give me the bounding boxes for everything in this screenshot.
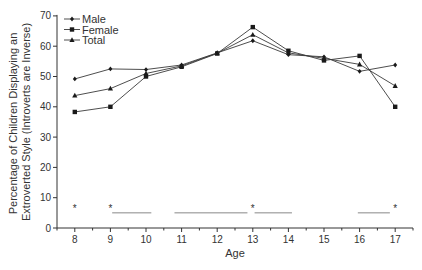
series-line — [75, 41, 395, 79]
legend-label: Total — [82, 34, 105, 46]
series-lines — [72, 25, 398, 114]
x-tick-label: 16 — [354, 234, 366, 245]
data-point — [251, 38, 255, 43]
data-point — [108, 105, 112, 109]
y-tick-label: 0 — [45, 223, 51, 234]
x-tick-label: 12 — [212, 234, 224, 245]
data-point — [250, 32, 255, 37]
y-tick-label: 40 — [40, 101, 52, 112]
data-point — [108, 67, 112, 72]
significance-asterisk: * — [251, 203, 255, 214]
x-tick-label: 14 — [283, 234, 295, 245]
y-axis: 010203040506070 — [40, 10, 57, 233]
y-axis-title-line-1: Percentage of Children Displaying an — [7, 33, 19, 215]
y-tick-label: 70 — [40, 10, 52, 21]
significance-asterisk: * — [393, 203, 397, 214]
significance-asterisk: * — [73, 203, 77, 214]
data-point — [251, 25, 255, 29]
data-point — [393, 83, 398, 88]
legend-item-total: Total — [64, 34, 105, 46]
line-chart: 010203040506070 891011121314151617 **** … — [0, 0, 422, 270]
data-point — [357, 54, 361, 58]
data-point — [73, 110, 77, 114]
series-male — [73, 38, 397, 81]
legend: MaleFemaleTotal — [64, 13, 119, 46]
data-point — [358, 69, 362, 74]
x-axis-title: Age — [225, 247, 245, 259]
y-tick-label: 60 — [40, 41, 52, 52]
series-total — [72, 32, 398, 98]
x-axis: 891011121314151617 — [57, 228, 413, 245]
significance-asterisk: * — [108, 203, 112, 214]
x-tick-label: 11 — [176, 234, 187, 245]
y-axis-title-line-2: Extroverted Style (Introverts are Invers… — [20, 23, 32, 221]
x-tick-label: 15 — [318, 234, 330, 245]
x-tick-label: 8 — [72, 234, 78, 245]
y-axis-title: Percentage of Children Displaying an Ext… — [7, 23, 32, 221]
y-tick-label: 30 — [40, 132, 52, 143]
significance-annotations: **** — [73, 203, 397, 214]
y-tick-label: 20 — [40, 162, 52, 173]
x-tick-label: 9 — [108, 234, 114, 245]
square-marker-icon — [70, 27, 74, 31]
data-point — [73, 77, 77, 82]
x-tick-label: 13 — [247, 234, 259, 245]
y-tick-label: 50 — [40, 71, 52, 82]
series-line — [75, 35, 395, 96]
x-tick-label: 10 — [140, 234, 152, 245]
diamond-marker-icon — [70, 17, 74, 22]
data-point — [393, 63, 397, 68]
data-point — [393, 105, 397, 109]
x-tick-label: 17 — [390, 234, 402, 245]
y-tick-label: 10 — [40, 192, 52, 203]
